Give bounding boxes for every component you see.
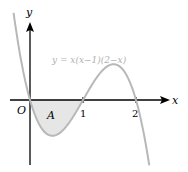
tick-label-1: 1 [80, 108, 86, 119]
equation-label: y = x(x−1)(2−x) [51, 55, 127, 65]
region-a-label: A [46, 109, 55, 122]
y-axis-label: y [25, 6, 33, 19]
x-axis-label: x [172, 94, 179, 107]
cubic-graph: y x O A 1 2 y = x(x−1)(2−x) [0, 0, 188, 172]
shaded-region-a [30, 100, 83, 136]
cubic-curve [14, 13, 150, 166]
tick-label-2: 2 [132, 108, 138, 119]
origin-label: O [17, 104, 26, 117]
